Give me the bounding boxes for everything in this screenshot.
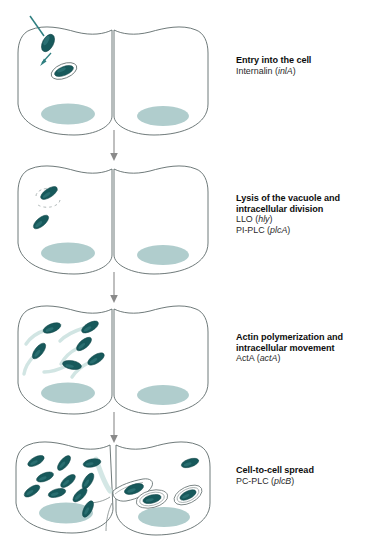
stage-entry-caption: Entry into the cell Internalin (inlA) bbox=[236, 55, 378, 76]
stage-spread: Cell-to-cell spread PC-PLC (plcB) bbox=[0, 437, 378, 556]
stage-lysis-caption: Lysis of the vacuole and intracellular d… bbox=[236, 193, 378, 235]
stage-lysis-title-line1: Lysis of the vacuole and bbox=[236, 193, 378, 204]
nucleus-right bbox=[138, 507, 190, 527]
flow-arrow-1 bbox=[0, 130, 228, 162]
stage-spread-title: Cell-to-cell spread bbox=[236, 465, 378, 476]
stage-lysis-factor-1: PI-PLC (plcA) bbox=[236, 225, 378, 235]
stage-actin-factor-0: ActA (actA) bbox=[236, 353, 378, 363]
nucleus-right bbox=[137, 245, 189, 265]
nucleus-left bbox=[41, 383, 95, 404]
stage-spread-caption: Cell-to-cell spread PC-PLC (plcB) bbox=[236, 465, 378, 486]
stage-actin-title-line1: Actin polymerization and bbox=[236, 332, 378, 343]
stage-entry-illustration bbox=[0, 8, 228, 147]
stage-lysis-title-line2: intracellular division bbox=[236, 204, 378, 215]
stage-actin-title-line2: intracellular movement bbox=[236, 343, 378, 354]
stage-spread-factor-0: PC-PLC (plcB) bbox=[236, 476, 378, 486]
stage-lysis-factor-0: LLO (hly) bbox=[236, 214, 378, 224]
nucleus-left bbox=[41, 104, 95, 125]
nucleus-right bbox=[137, 385, 189, 405]
nucleus-left bbox=[41, 243, 95, 264]
stage-spread-illustration bbox=[0, 437, 228, 556]
stage-entry: Entry into the cell Internalin (inlA) bbox=[0, 8, 378, 147]
nucleus-right bbox=[137, 106, 189, 126]
stage-actin-caption: Actin polymerization and intracellular m… bbox=[236, 332, 378, 364]
stage-entry-title: Entry into the cell bbox=[236, 55, 378, 66]
stage-entry-factor-0: Internalin (inlA) bbox=[236, 66, 378, 76]
